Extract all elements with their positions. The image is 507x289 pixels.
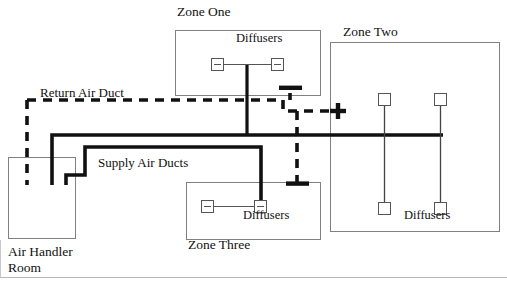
diffuser-zone-two-bottom-left	[379, 203, 391, 215]
return-grille-zone-two-stem	[336, 103, 340, 119]
return-duct-main-run	[27, 100, 337, 111]
air-handler-room-label-line1: Air Handler	[8, 245, 73, 260]
supply-air-ducts-label: Supply Air Ducts	[98, 156, 188, 170]
air-handler-room-label-line2: Room	[8, 261, 41, 276]
zone-two-boundary	[331, 43, 500, 232]
zone-one-label: Zone One	[177, 5, 231, 20]
return-grille-zone-one	[279, 86, 302, 90]
diffusers-zone-three-label: Diffusers	[243, 209, 289, 223]
hvac-diagram: Zone One Zone Two Zone Three Diffusers D…	[0, 0, 507, 289]
return-grille-zone-three	[286, 181, 309, 185]
diffusers-zone-one-label: Diffusers	[236, 32, 282, 46]
return-air-duct-label: Return Air Duct	[40, 86, 124, 100]
air-handler-room-boundary	[9, 158, 76, 239]
zone-three-label: Zone Three	[188, 238, 250, 253]
diffusers-zone-two-label: Diffusers	[404, 209, 450, 223]
diffuser-zone-two-top-right	[435, 94, 447, 106]
zone-two-label: Zone Two	[343, 25, 398, 40]
diffuser-zone-two-top-left	[379, 94, 391, 106]
